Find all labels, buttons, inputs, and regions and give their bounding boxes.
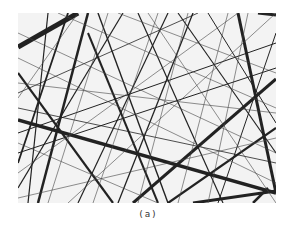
micrograph-image xyxy=(18,13,276,203)
crossing-lines-graphic xyxy=(18,13,276,203)
figure-caption: (a) xyxy=(0,209,296,219)
